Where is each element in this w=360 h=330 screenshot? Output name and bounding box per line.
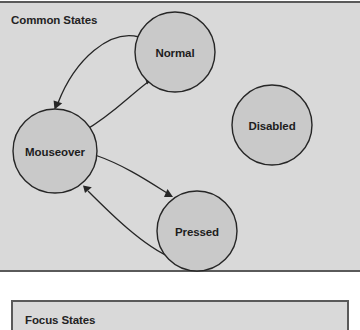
state-node-disabled[interactable]: Disabled — [232, 85, 312, 165]
state-node-normal[interactable]: Normal — [135, 12, 215, 92]
panel-focus-states-title: Focus States — [25, 315, 95, 327]
panel-common-states: Common States — [0, 1, 360, 272]
edge-mouseover-to-pressed — [95, 155, 173, 197]
state-diagram-graphic: Normal Mouseover Pressed Disabled — [0, 3, 360, 275]
edge-mouseover-to-normal — [84, 76, 154, 131]
state-node-pressed-label: Pressed — [175, 226, 219, 238]
state-node-disabled-label: Disabled — [248, 120, 295, 132]
edge-normal-to-mouseover — [54, 36, 139, 110]
state-node-pressed[interactable]: Pressed — [157, 191, 237, 271]
state-node-mouseover[interactable]: Mouseover — [13, 109, 97, 193]
diagram-stage: Common States — [0, 0, 360, 330]
state-node-mouseover-label: Mouseover — [25, 146, 85, 158]
panel-focus-states: Focus States — [11, 300, 349, 330]
state-node-normal-label: Normal — [155, 47, 194, 59]
